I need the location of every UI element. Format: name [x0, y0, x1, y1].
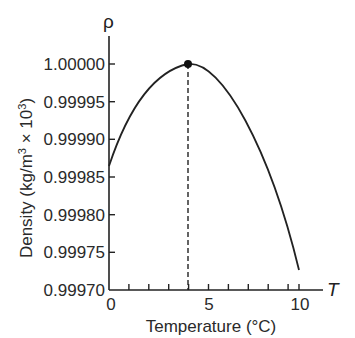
x-axis-symbol: T	[327, 279, 340, 300]
y-tick-label: 0.99975	[44, 243, 105, 262]
x-tick-labels: 0 5 10	[106, 295, 309, 314]
density-chart: 1.00000 0.99995 0.99990 0.99985 0.99980 …	[0, 0, 355, 338]
x-axis-title: Temperature (°C)	[146, 317, 277, 336]
y-tick-label: 0.99970	[44, 281, 105, 300]
max-density-point	[184, 60, 192, 68]
y-tick-label: 0.99995	[44, 93, 105, 112]
x-tick-label: 5	[204, 295, 213, 314]
y-tick-label: 0.99980	[44, 206, 105, 225]
x-ticks	[129, 284, 299, 290]
x-tick-label: 10	[291, 295, 310, 314]
density-curve	[109, 64, 299, 270]
y-tick-labels: 1.00000 0.99995 0.99990 0.99985 0.99980 …	[44, 55, 105, 300]
y-tick-label: 0.99985	[44, 168, 105, 187]
x-tick-label: 0	[106, 295, 115, 314]
y-axis-title: Density (kg/m3 × 103)	[16, 98, 36, 258]
y-tick-label: 1.00000	[44, 55, 105, 74]
y-tick-label: 0.99990	[44, 130, 105, 149]
y-axis-symbol: ρ	[103, 11, 114, 32]
